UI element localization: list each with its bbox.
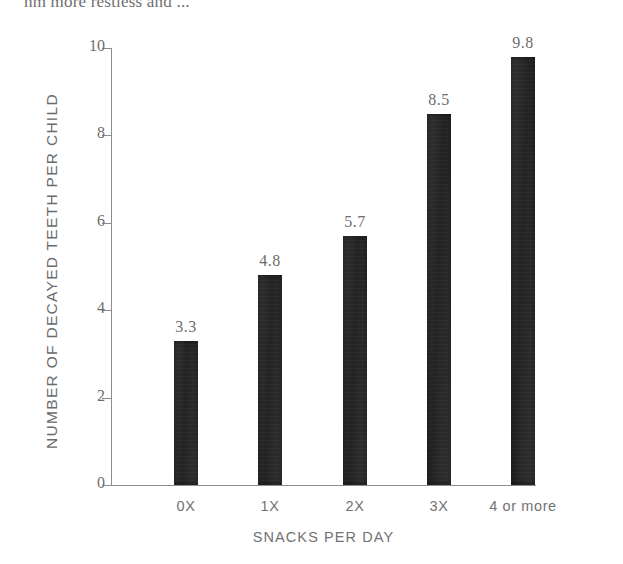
plot-area: 02468103.30X4.81X5.72X8.53X9.84 or more — [111, 48, 560, 485]
y-axis-line — [111, 48, 112, 486]
bar-value-label: 9.8 — [512, 34, 534, 52]
x-axis-line — [111, 485, 536, 486]
y-tick-label: 10 — [89, 37, 105, 55]
x-category-label: 1X — [261, 498, 280, 514]
y-axis-title: NUMBER OF DECAYED TEETH PER CHILD — [43, 61, 61, 481]
y-tick-label: 6 — [97, 212, 105, 230]
y-tick-label: 0 — [97, 474, 105, 492]
y-tick-label: 4 — [97, 299, 105, 317]
bar-4-or-more[interactable]: 9.84 or more — [511, 57, 535, 485]
bar-value-label: 4.8 — [259, 252, 281, 270]
x-category-label: 2X — [346, 498, 365, 514]
bar-2x[interactable]: 5.72X — [343, 236, 367, 485]
x-category-label: 3X — [430, 498, 449, 514]
bar-chart-figure: NUMBER OF DECAYED TEETH PER CHILD 024681… — [0, 0, 623, 564]
bar-value-label: 3.3 — [175, 318, 197, 336]
bar-1x[interactable]: 4.81X — [258, 275, 282, 485]
bar-value-label: 5.7 — [344, 213, 366, 231]
x-category-label: 0X — [177, 498, 196, 514]
bar-value-label: 8.5 — [428, 91, 450, 109]
y-tick-label: 8 — [97, 124, 105, 142]
bar-0x[interactable]: 3.30X — [174, 341, 198, 485]
x-axis-title: SNACKS PER DAY — [111, 529, 536, 545]
bar-3x[interactable]: 8.53X — [427, 114, 451, 485]
x-category-label: 4 or more — [489, 498, 556, 514]
y-tick-label: 2 — [97, 387, 105, 405]
